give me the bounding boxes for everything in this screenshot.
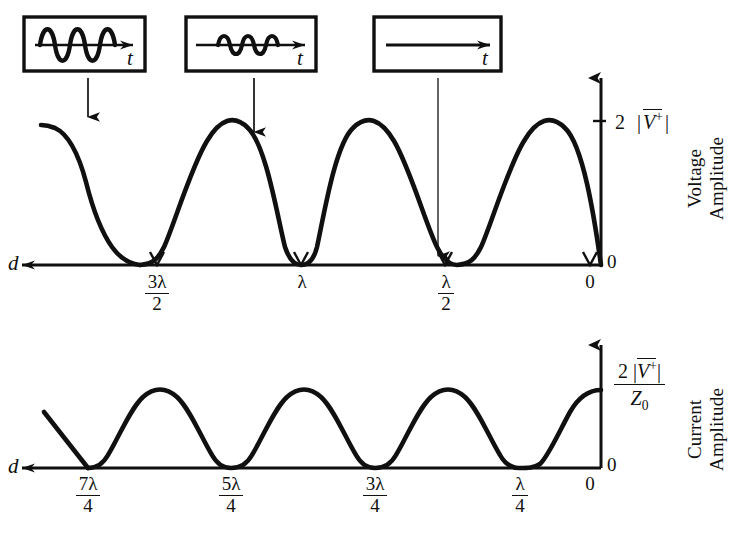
current-y-max-label: 2 |V+| Z0 [614, 358, 665, 413]
v-letter: V [637, 360, 649, 382]
voltage-y-coefficient: 2 [615, 111, 625, 133]
current-axis-title-line1: Current [684, 370, 706, 488]
plus-superscript: + [649, 358, 657, 373]
voltage-chart [22, 78, 606, 265]
voltage-y-zero-label: 0 [607, 252, 617, 271]
tick-denominator: 4 [76, 495, 101, 517]
tick-denominator: 4 [363, 495, 388, 517]
current-chart [22, 345, 601, 468]
abs-bar-left: | [635, 111, 643, 133]
current-y-zero-label: 0 [607, 455, 617, 474]
current-x-tick-7lambda-over-4: 7λ 4 [64, 474, 112, 516]
current-x-axis-label: d [8, 456, 19, 477]
voltage-axis-title: Voltage Amplitude [684, 118, 729, 238]
current-x-tick-zero: 0 [578, 474, 602, 493]
current-x-tick-3lambda-over-4: 3λ 4 [351, 474, 399, 516]
tick-numerator: λ [438, 272, 454, 293]
abs-bar-left: | [628, 360, 637, 382]
z-letter: Z [631, 387, 642, 409]
current-curve [88, 390, 601, 469]
current-x-tick-5lambda-over-4: 5λ 4 [207, 474, 255, 516]
tick-numerator: 7λ [76, 474, 101, 495]
current-axis-title: Current Amplitude [684, 370, 729, 488]
tick-numerator: 3λ [363, 474, 388, 495]
current-y-denominator: Z0 [614, 384, 665, 414]
v-letter: V [643, 111, 655, 133]
figure-canvas: t t t d 3λ 2 λ λ 2 0 0 20|V+| Voltage Am… [0, 0, 738, 539]
inset-max-time-label: t [127, 48, 133, 69]
voltage-x-tick-lambda-over-2: λ 2 [426, 272, 466, 314]
current-axis-title-line2: Amplitude [706, 370, 728, 488]
tick-numerator: 3λ [145, 272, 170, 293]
tick-denominator: 2 [438, 293, 454, 315]
v-plus-symbol: V+ [643, 110, 663, 133]
voltage-y-max-label: 20|V+| [615, 110, 671, 133]
tick-denominator: 2 [145, 293, 170, 315]
current-y-numerator: 2 |V+| [614, 358, 665, 384]
tick-numerator: λ [512, 474, 528, 495]
tick-denominator: 4 [512, 495, 528, 517]
voltage-curve-left-tail [41, 125, 140, 265]
voltage-axis-title-line1: Voltage [684, 118, 706, 238]
current-curve-left-tail [44, 412, 88, 468]
diagram-vector-layer [0, 0, 738, 539]
voltage-curve [140, 120, 601, 265]
voltage-x-tick-3lambda-over-2: 3λ 2 [133, 272, 181, 314]
voltage-x-axis-label: d [8, 253, 19, 274]
plus-superscript: + [655, 109, 663, 124]
inset-null-time-label: t [482, 48, 488, 69]
inset-mid-time-label: t [297, 48, 303, 69]
voltage-x-ticks [150, 252, 597, 265]
z-subscript: 0 [642, 398, 649, 413]
tick-denominator: 4 [219, 495, 244, 517]
v-plus-symbol: V+ [637, 359, 657, 382]
current-y-coefficient: 2 [618, 360, 628, 382]
current-x-tick-lambda-over-4: λ 4 [500, 474, 540, 516]
voltage-x-tick-lambda: λ [288, 272, 316, 291]
abs-bar-right: | [657, 360, 661, 382]
tick-numerator: 5λ [219, 474, 244, 495]
voltage-x-tick-zero: 0 [578, 272, 602, 291]
voltage-axis-title-line2: Amplitude [706, 118, 728, 238]
abs-bar-right: | [663, 111, 671, 133]
